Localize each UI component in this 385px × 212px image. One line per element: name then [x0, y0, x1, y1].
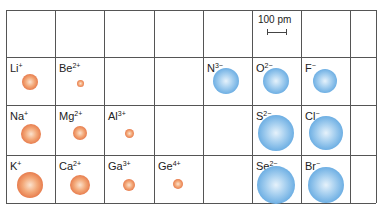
ion-sphere-ga — [123, 179, 135, 191]
ion-label-na: Na+ — [10, 111, 28, 122]
ion-label-f: F− — [305, 63, 316, 74]
ion-label-ge: Ge4+ — [158, 161, 181, 172]
ion-sphere-ca — [70, 175, 90, 195]
ion-sphere-n — [213, 68, 239, 94]
ion-sphere-cl — [309, 116, 343, 150]
ion-label-k: K+ — [10, 161, 21, 172]
ion-sphere-na — [21, 124, 41, 144]
scale-label: 100 pm — [258, 14, 291, 25]
scale-bar — [267, 32, 286, 33]
ion-sphere-br — [308, 167, 344, 203]
ion-size-grid: 100 pm Li+Be2+N3−O2−F−Na+Mg2+Al3+S2−Cl−K… — [0, 0, 385, 212]
ion-label-al: Al3+ — [108, 111, 126, 122]
ion-label-li: Li+ — [10, 63, 23, 74]
ion-sphere-se — [257, 166, 295, 204]
ion-sphere-o — [263, 68, 289, 94]
scale-tick-left — [267, 29, 268, 35]
ion-sphere-k — [17, 172, 43, 198]
ion-sphere-mg — [73, 126, 87, 140]
ion-sphere-li — [22, 74, 38, 90]
ion-sphere-ge — [173, 179, 183, 189]
ion-sphere-s — [258, 115, 294, 151]
scale-tick-right — [286, 29, 287, 35]
ion-label-ca: Ca2+ — [59, 161, 81, 172]
ion-label-be: Be2+ — [59, 63, 80, 74]
ion-label-mg: Mg2+ — [59, 111, 82, 122]
ion-sphere-be — [77, 80, 84, 87]
ion-label-ga: Ga3+ — [108, 161, 131, 172]
ion-sphere-al — [125, 129, 134, 138]
ion-sphere-f — [313, 69, 337, 93]
